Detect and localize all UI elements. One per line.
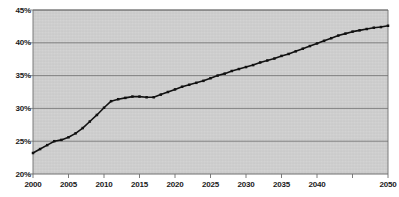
x-axis-tick-label: 2015	[123, 180, 157, 189]
line-chart: 45%40%35%30%25%20% 200020052010201520202…	[0, 0, 399, 197]
x-axis-labels: 2000200520102015202020252030203520402050	[0, 0, 399, 197]
x-axis-tick-label: 2040	[300, 180, 334, 189]
x-axis-tick-label: 2035	[265, 180, 299, 189]
x-axis-tick-label: 2025	[194, 180, 228, 189]
x-axis-tick-label: 2050	[371, 180, 399, 189]
x-axis-tick-label: 2000	[16, 180, 50, 189]
x-axis-tick-label: 2005	[52, 180, 86, 189]
x-axis-tick-label: 2010	[87, 180, 121, 189]
x-axis-tick-label: 2030	[229, 180, 263, 189]
x-axis-tick-label: 2020	[158, 180, 192, 189]
